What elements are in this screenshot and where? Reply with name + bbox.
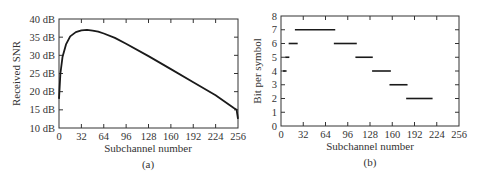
y-tick-label: 15 dB [30, 104, 55, 115]
y-tick-label: 2 [272, 93, 277, 104]
y-tick-label: 4 [272, 66, 278, 77]
y-tick-label: 20 dB [30, 86, 55, 97]
chart-b-bit-loading: 0326496128160192224256012345678Subchanne… [251, 11, 467, 170]
x-tick-label: 128 [362, 129, 378, 140]
x-tick-label: 192 [185, 131, 201, 142]
x-tick-label: 224 [208, 131, 225, 142]
y-axis-label: Received SNR [10, 40, 22, 106]
y-tick-label: 1 [272, 107, 277, 118]
y-tick-label: 25 dB [30, 68, 55, 79]
x-axis-label: Subchannel number [326, 140, 414, 152]
y-axis-label: Bit per symbol [251, 38, 263, 103]
y-tick-label: 7 [272, 24, 277, 35]
x-tick-label: 128 [141, 131, 157, 142]
y-tick-label: 8 [272, 11, 277, 22]
snr-curve [59, 30, 238, 119]
x-tick-label: 224 [429, 129, 446, 140]
chart-a-snr: 032649612816019222425610 dB15 dB20 dB25 … [10, 14, 246, 172]
y-tick-label: 35 dB [30, 32, 55, 43]
y-tick-label: 0 [272, 121, 277, 132]
x-tick-label: 160 [384, 129, 400, 140]
x-tick-label: 160 [163, 131, 179, 142]
x-tick-label: 256 [230, 131, 246, 142]
panel-label: (b) [364, 156, 377, 169]
panel-label: (a) [142, 158, 155, 171]
y-tick-label: 5 [272, 52, 277, 63]
x-tick-label: 32 [298, 129, 309, 140]
x-axis-label: Subchannel number [104, 142, 192, 154]
x-tick-label: 256 [451, 129, 467, 140]
plot-frame [59, 19, 238, 128]
x-tick-label: 64 [320, 129, 331, 140]
y-tick-label: 40 dB [30, 14, 55, 25]
y-tick-label: 6 [272, 38, 277, 49]
y-tick-label: 3 [272, 79, 277, 90]
x-tick-label: 0 [56, 131, 61, 142]
y-tick-label: 10 dB [30, 123, 55, 134]
x-tick-label: 64 [99, 131, 110, 142]
x-tick-label: 192 [407, 129, 423, 140]
figure: 032649612816019222425610 dB15 dB20 dB25 … [0, 0, 480, 177]
y-tick-label: 30 dB [30, 50, 55, 61]
x-tick-label: 0 [278, 129, 283, 140]
plot-frame [281, 16, 459, 126]
x-tick-label: 32 [76, 131, 87, 142]
x-tick-label: 96 [121, 131, 132, 142]
x-tick-label: 96 [343, 129, 354, 140]
